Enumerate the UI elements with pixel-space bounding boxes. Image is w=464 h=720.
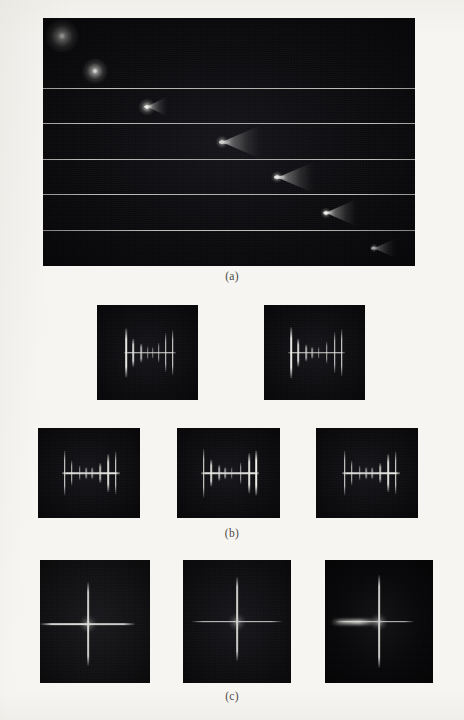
panel-b-tile <box>97 305 198 400</box>
bow-shock-cone <box>326 198 360 228</box>
sensor-noise <box>43 231 415 266</box>
fringe-tick <box>85 467 87 479</box>
shock-tip <box>144 105 151 108</box>
sensor-noise <box>43 124 415 159</box>
caption-c: (c) <box>0 690 464 702</box>
bow-shock-cone <box>222 124 264 159</box>
fringe-tick <box>218 465 220 481</box>
fringe-tick <box>141 343 143 362</box>
fringe-pattern <box>264 305 365 400</box>
fringe-tick <box>108 454 110 492</box>
fringe-tick <box>306 344 308 361</box>
object-halo <box>370 244 379 253</box>
fringe-tick <box>231 467 233 479</box>
fringe-tick <box>203 449 205 498</box>
fringe-tick <box>318 346 320 358</box>
fringe-tick <box>225 467 227 479</box>
figure-page: (a) (b) (c) <box>0 0 464 720</box>
fringe-tick <box>334 332 336 374</box>
object-halo <box>215 135 228 148</box>
object-halo <box>82 58 108 84</box>
fringe-tick <box>248 453 250 493</box>
fringe-tick <box>351 460 353 485</box>
shock-tip <box>371 247 378 250</box>
panel-a-frame <box>43 18 415 53</box>
fringe-tick <box>312 346 314 358</box>
fringe-tick <box>379 463 381 483</box>
fringe-tick <box>256 451 258 496</box>
panel-a-frame <box>43 195 415 230</box>
panel-a-image <box>43 18 415 266</box>
fringe-tick <box>240 462 242 484</box>
panel-a-frame <box>43 124 415 159</box>
bow-shock-cone <box>374 237 398 259</box>
fringe-pattern <box>177 428 280 518</box>
cross-center-glow <box>229 614 245 630</box>
fringe-tick <box>359 465 361 480</box>
sensor-noise <box>43 160 415 195</box>
caption-a: (a) <box>0 270 464 282</box>
fringe-tick <box>365 467 367 479</box>
fringe-tick <box>147 346 149 359</box>
object-core <box>373 247 376 250</box>
panel-b-tile <box>264 305 365 400</box>
panel-a-frame <box>43 231 415 266</box>
cross-center-glow <box>371 614 387 630</box>
fringe-tick <box>341 329 343 377</box>
object-core <box>324 211 328 215</box>
shock-tip <box>219 141 232 144</box>
fringe-tick <box>326 341 328 364</box>
object-core <box>59 33 64 38</box>
fringe-tick <box>371 467 373 479</box>
panel-a-frame <box>43 160 415 195</box>
sensor-noise <box>43 195 415 230</box>
fringe-tick <box>290 327 292 378</box>
object-core <box>145 105 149 109</box>
panel-a-frame <box>43 53 415 88</box>
panel-c-tile <box>40 560 150 683</box>
fringe-tick <box>99 463 101 483</box>
fringe-tick <box>64 451 66 496</box>
object-core <box>275 175 279 179</box>
sensor-noise <box>43 89 415 124</box>
cross-center-glow <box>80 616 96 632</box>
shock-tip <box>274 176 286 179</box>
panel-c-tile <box>183 560 291 683</box>
fringe-pattern <box>38 428 140 518</box>
fringe-tick <box>125 328 127 377</box>
fringe-tick <box>115 451 117 494</box>
fringe-tick <box>172 330 174 376</box>
sensor-noise <box>43 18 415 53</box>
panel-b-tile <box>38 428 140 518</box>
fringe-tick <box>165 333 167 373</box>
panel-a-frame <box>43 89 415 124</box>
fringe-tick <box>210 460 212 487</box>
object-core <box>93 69 97 73</box>
bow-shock-cone <box>147 96 169 118</box>
sensor-noise <box>43 53 415 88</box>
fringe-tick <box>395 451 397 494</box>
fringe-tick <box>91 467 93 479</box>
object-halo <box>45 19 79 53</box>
object-halo <box>320 207 331 218</box>
panel-b-tile <box>316 428 418 518</box>
object-halo <box>139 98 156 115</box>
fringe-tick <box>71 460 73 485</box>
fringe-tick <box>133 338 135 367</box>
fringe-tick <box>298 338 300 367</box>
fringe-tick <box>158 342 160 363</box>
bow-shock-cone <box>277 160 317 194</box>
caption-b: (b) <box>0 527 464 539</box>
fringe-tick <box>79 465 81 480</box>
object-halo <box>271 171 283 183</box>
panel-c-tile <box>325 560 433 683</box>
fringe-tick <box>152 346 154 358</box>
object-core <box>220 140 224 144</box>
fringe-tick <box>344 451 346 496</box>
fringe-pattern <box>97 305 198 400</box>
fringe-pattern <box>316 428 418 518</box>
panel-b-tile <box>177 428 280 518</box>
shock-tip <box>323 212 333 215</box>
fringe-tick <box>388 454 390 492</box>
